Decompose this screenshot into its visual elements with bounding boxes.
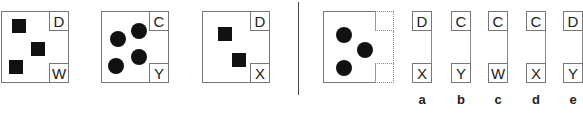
connector-line xyxy=(470,31,471,63)
top-label: C xyxy=(526,11,546,31)
top-label: D xyxy=(563,11,583,31)
option-b[interactable]: C Y xyxy=(451,11,471,83)
top-label: C xyxy=(149,11,169,31)
circle-shape xyxy=(357,42,373,58)
circle-shape xyxy=(131,49,147,65)
top-label: D xyxy=(49,11,69,31)
circle-shape xyxy=(336,60,352,76)
square-shape xyxy=(9,60,23,74)
option-a[interactable]: D X xyxy=(412,11,432,83)
top-label: C xyxy=(488,11,508,31)
circle-shape xyxy=(131,23,147,39)
option-e[interactable]: D Y xyxy=(563,11,583,83)
bottom-label: W xyxy=(49,63,69,83)
bottom-label: W xyxy=(488,63,508,83)
bottom-label: Y xyxy=(451,63,471,83)
missing-bottom-label-slot xyxy=(375,63,394,83)
bottom-label: X xyxy=(250,63,270,83)
square-shape xyxy=(232,53,246,67)
circle-shape xyxy=(110,31,126,47)
missing-top-label-slot xyxy=(375,11,394,31)
circle-shape xyxy=(336,27,352,43)
bottom-label: Y xyxy=(149,63,169,83)
square-shape xyxy=(12,19,26,33)
bottom-label: X xyxy=(526,63,546,83)
square-shape xyxy=(31,42,45,56)
option-d-letter: d xyxy=(526,92,546,107)
option-a-letter: a xyxy=(412,92,432,107)
connector-line xyxy=(507,31,508,63)
question-panel xyxy=(323,11,376,83)
option-b-letter: b xyxy=(451,92,471,107)
top-label: C xyxy=(451,11,471,31)
option-c-letter: c xyxy=(488,92,508,107)
top-label: D xyxy=(412,11,432,31)
option-c[interactable]: C W xyxy=(488,11,508,83)
sequence-panel-1: D W xyxy=(1,11,69,83)
divider-line xyxy=(298,2,299,95)
bottom-label: X xyxy=(412,63,432,83)
bottom-label: Y xyxy=(563,63,583,83)
square-shape xyxy=(218,27,232,41)
missing-edge-dotted xyxy=(393,31,394,63)
top-label: D xyxy=(250,11,270,31)
option-e-letter: e xyxy=(563,92,583,107)
circle-shape xyxy=(108,58,124,74)
connector-line xyxy=(431,31,432,63)
connector-line xyxy=(545,31,546,63)
sequence-panel-2: C Y xyxy=(101,11,169,83)
option-d[interactable]: C X xyxy=(526,11,546,83)
sequence-panel-3: D X xyxy=(202,11,270,83)
